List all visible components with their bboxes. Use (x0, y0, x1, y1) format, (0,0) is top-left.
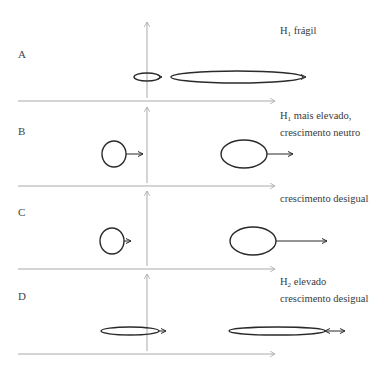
caption-prefix: H (280, 110, 288, 121)
circle-shape (100, 228, 124, 254)
panel-c-circle-1 (100, 228, 131, 254)
ellipse-shape (230, 227, 276, 255)
ellipse-shape (229, 327, 325, 335)
panel-b-ellipse-2 (221, 140, 293, 168)
caption-line-2: crescimento neutro (280, 127, 360, 138)
caption-line-1: crescimento desigual (280, 193, 368, 204)
diagram-canvas (0, 0, 388, 375)
panel-c-caption: crescimento desigual (280, 192, 368, 205)
panel-b-axes (18, 107, 275, 186)
panel-a-ellipse-2 (171, 71, 306, 83)
panel-d-caption: H2 elevado crescimento desigual (280, 275, 368, 305)
panel-label-a: A (18, 48, 26, 60)
panel-d-ellipse-2 (229, 327, 345, 335)
ellipse-shape (171, 71, 303, 83)
panel-a-caption: H1 frágil (280, 24, 316, 41)
panel-b-caption: H1 mais elevado, crescimento neutro (280, 109, 360, 139)
caption-line-1: frágil (291, 25, 316, 36)
caption-line-2: crescimento desigual (280, 293, 368, 304)
panel-c-axes (18, 191, 275, 269)
panel-a-ellipse-1 (134, 73, 162, 81)
ellipse-shape (101, 327, 159, 335)
caption-prefix: H (280, 276, 288, 287)
caption-line-1: mais elevado, (291, 110, 351, 121)
panel-c-ellipse-2 (230, 227, 327, 255)
panel-b-circle-1 (102, 141, 143, 167)
panel-label-d: D (18, 290, 26, 302)
ellipse-shape (221, 140, 267, 168)
caption-line-1: elevado (291, 276, 326, 287)
panel-label-c: C (18, 206, 25, 218)
circle-shape (102, 141, 126, 167)
panel-a-axes (18, 22, 275, 101)
panel-d-axes (18, 274, 275, 354)
panel-label-b: B (18, 125, 25, 137)
panel-d-ellipse-1 (101, 327, 166, 335)
caption-prefix: H (280, 25, 288, 36)
